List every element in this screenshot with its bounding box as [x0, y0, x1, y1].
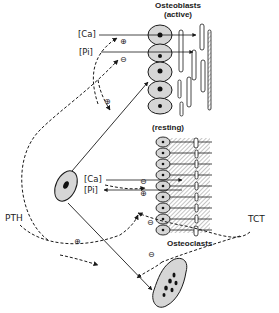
osteoclasts-label: Osteoclasts	[167, 240, 212, 248]
calcium-top-label: [Ca]	[78, 30, 96, 39]
minus-sign-tct-lower: ⊖	[148, 251, 155, 259]
phosphate-mid-label: [Pi]	[84, 186, 98, 195]
progenitor-cell	[50, 167, 82, 204]
osteoblasts-title: Osteoblasts	[148, 2, 208, 10]
resting-label: (resting)	[152, 124, 184, 132]
phosphate-top-label: [Pi]	[79, 48, 93, 57]
resting-osteoblasts	[156, 137, 212, 236]
differentiation-arrows	[68, 82, 152, 290]
minus-sign-mid: ⊖	[140, 178, 147, 186]
plus-sign-top: ⊕	[120, 38, 127, 46]
hormone-paths	[20, 38, 250, 278]
plus-sign-mid: ⊕	[140, 190, 147, 198]
active-osteoblasts	[148, 25, 172, 114]
calcium-mid-label: [Ca]	[84, 175, 102, 184]
osteoblasts-active-label: Osteoblasts (active)	[148, 2, 208, 19]
minus-sign-top: ⊖	[120, 56, 127, 64]
pth-label: PTH	[5, 214, 23, 223]
osteoid-fibers	[178, 24, 211, 116]
plus-sign-loop: ⊕	[104, 98, 111, 106]
active-subtitle: (active)	[148, 11, 208, 19]
minus-sign-tct-upper: ⊖	[147, 219, 154, 227]
plus-sign-pth-lower: ⊕	[74, 238, 81, 246]
tct-label: TCT	[248, 215, 265, 224]
bone-cell-regulation-diagram	[0, 0, 279, 313]
